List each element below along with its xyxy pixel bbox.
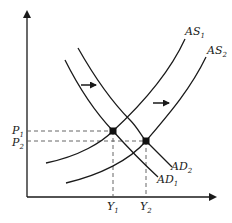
ad1-label: AD1 — [156, 173, 178, 188]
ad1-curve — [65, 60, 158, 177]
guide-lines — [27, 131, 146, 197]
ad2-curve — [78, 48, 172, 167]
y2-label: Y2 — [140, 200, 152, 215]
as1-label: AS1 — [184, 25, 205, 40]
as1-curve — [46, 39, 185, 163]
equilibrium-point-1 — [110, 128, 117, 135]
equilibrium-point-2 — [143, 138, 150, 145]
as2-label: AS2 — [206, 44, 227, 59]
y1-label: Y1 — [107, 200, 119, 215]
ad-as-diagram: AS1 AS2 AD2 AD1 P1 P2 Y1 Y2 — [0, 0, 232, 223]
